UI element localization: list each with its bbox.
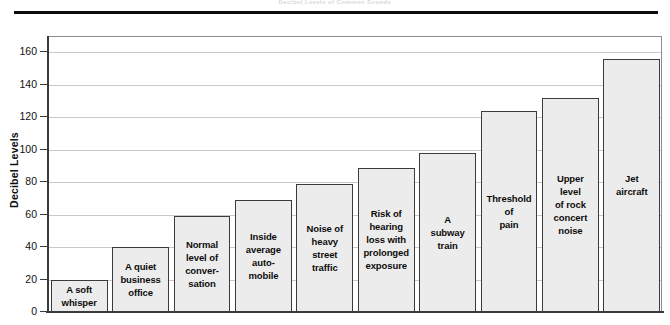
y-tick-label-0: 0 xyxy=(3,305,37,317)
y-tick-0 xyxy=(40,311,48,312)
bar-label-3: Normal level of conver- sation xyxy=(184,238,220,290)
y-tick-label-140: 140 xyxy=(3,78,37,90)
bar-8[interactable]: Threshold of pain xyxy=(481,111,538,312)
bar-5[interactable]: Noise of heavy street traffic xyxy=(296,184,353,312)
y-tick-label-20: 20 xyxy=(3,273,37,285)
bar-label-6: Risk of hearing loss with prolonged expo… xyxy=(362,207,410,272)
y-tick-140 xyxy=(40,84,48,85)
bar-label-7: A subway train xyxy=(429,213,465,252)
bar-label-5: Noise of heavy street traffic xyxy=(305,222,344,274)
bar-1[interactable]: A soft whisper xyxy=(51,280,108,313)
bar-label-8: Threshold of pain xyxy=(485,192,532,231)
y-tick-label-60: 60 xyxy=(3,208,37,220)
y-tick-label-80: 80 xyxy=(3,175,37,187)
decibel-levels-bar-chart: Decibel Levels 020406080100120140160 A s… xyxy=(0,0,670,325)
bar-10[interactable]: Jet aircraft xyxy=(603,59,660,312)
y-tick-100 xyxy=(40,149,48,150)
y-tick-label-160: 160 xyxy=(3,45,37,57)
bar-label-2: A quiet business office xyxy=(119,260,161,299)
y-tick-60 xyxy=(40,214,48,215)
y-tick-20 xyxy=(40,279,48,280)
bar-7[interactable]: A subway train xyxy=(419,153,476,312)
y-tick-80 xyxy=(40,181,48,182)
bar-3[interactable]: Normal level of conver- sation xyxy=(174,216,231,312)
y-tick-label-40: 40 xyxy=(3,240,37,252)
bar-9[interactable]: Upper level of rock concert noise xyxy=(542,98,599,312)
bar-label-4: Inside average auto- mobile xyxy=(245,230,282,282)
y-tick-40 xyxy=(40,246,48,247)
y-tick-160 xyxy=(40,51,48,52)
y-tick-label-120: 120 xyxy=(3,110,37,122)
bar-4[interactable]: Inside average auto- mobile xyxy=(235,200,292,312)
bar-label-9: Upper level of rock concert noise xyxy=(553,172,589,237)
y-tick-label-100: 100 xyxy=(3,143,37,155)
bar-6[interactable]: Risk of hearing loss with prolonged expo… xyxy=(358,168,415,313)
bar-2[interactable]: A quiet business office xyxy=(112,247,169,312)
y-tick-120 xyxy=(40,116,48,117)
bar-label-1: A soft whisper xyxy=(61,283,98,309)
bar-label-10: Jet aircraft xyxy=(615,172,648,198)
bars-group: A soft whisperA quiet business officeNor… xyxy=(48,36,662,312)
